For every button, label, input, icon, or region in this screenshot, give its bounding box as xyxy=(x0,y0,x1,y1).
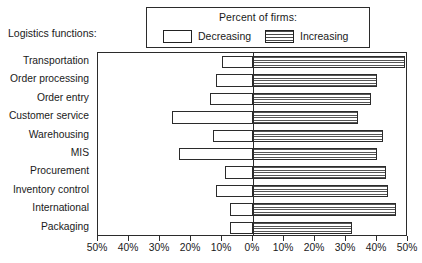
bar-decreasing xyxy=(222,56,253,68)
bar-increasing xyxy=(253,148,377,160)
x-axis-tick-label: 40% xyxy=(111,242,145,253)
bar-increasing xyxy=(253,93,371,105)
category-label: Inventory control xyxy=(13,181,89,199)
bar-increasing xyxy=(253,166,386,178)
legend-label-decreasing: Decreasing xyxy=(198,30,251,42)
category-label: Customer service xyxy=(9,107,89,125)
category-label: Warehousing xyxy=(29,126,89,144)
legend-item-decreasing: Decreasing xyxy=(163,28,251,44)
x-axis-tick-label: 50% xyxy=(80,242,114,253)
x-axis-tick xyxy=(252,236,253,241)
bar-row xyxy=(98,108,406,126)
x-axis-tick-label: 0% xyxy=(235,242,269,253)
bar-row xyxy=(98,219,406,237)
bar-row xyxy=(98,145,406,163)
x-axis-tick-label: 20% xyxy=(297,242,331,253)
bar-row xyxy=(98,90,406,108)
chart-legend: Percent of firms: Decreasing Increasing xyxy=(146,7,370,48)
x-axis-tick xyxy=(190,236,191,241)
x-axis-tick xyxy=(407,236,408,241)
legend-items-row: Decreasing Increasing xyxy=(147,28,369,46)
x-axis-tick xyxy=(128,236,129,241)
bar-row xyxy=(98,127,406,145)
category-label: Procurement xyxy=(30,162,89,180)
legend-swatch-increasing-icon xyxy=(265,30,294,43)
category-axis-labels: TransportationOrder processingOrder entr… xyxy=(0,52,93,236)
bar-increasing xyxy=(253,56,405,68)
category-label: MIS xyxy=(71,144,89,162)
legend-item-increasing: Increasing xyxy=(265,28,348,44)
x-axis-tick xyxy=(97,236,98,241)
bar-decreasing xyxy=(210,93,253,105)
bar-row xyxy=(98,71,406,89)
x-axis-tick xyxy=(345,236,346,241)
bar-row xyxy=(98,200,406,218)
x-axis-tick xyxy=(314,236,315,241)
bar-increasing xyxy=(253,185,388,197)
legend-label-increasing: Increasing xyxy=(300,30,348,42)
bar-decreasing xyxy=(213,130,253,142)
x-axis-tick-label: 10% xyxy=(204,242,238,253)
x-axis-tick xyxy=(283,236,284,241)
bar-decreasing xyxy=(172,111,253,123)
x-axis-tick-label: 40% xyxy=(359,242,393,253)
x-axis-tick xyxy=(221,236,222,241)
bar-decreasing xyxy=(225,166,253,178)
plot-area xyxy=(97,52,407,236)
x-axis-tick xyxy=(376,236,377,241)
bar-decreasing xyxy=(216,74,253,86)
x-axis-tick-label: 50% xyxy=(390,242,422,253)
bar-increasing xyxy=(253,74,377,86)
bar-decreasing xyxy=(179,148,253,160)
category-label: Transportation xyxy=(23,52,89,70)
bar-row xyxy=(98,53,406,71)
bar-decreasing xyxy=(216,185,253,197)
bar-increasing xyxy=(253,111,358,123)
x-axis-tick xyxy=(159,236,160,241)
category-label: Order entry xyxy=(37,89,89,107)
bar-increasing xyxy=(253,222,352,234)
x-axis-tick-label: 30% xyxy=(328,242,362,253)
bar-decreasing xyxy=(230,203,253,215)
bar-row xyxy=(98,182,406,200)
bar-increasing xyxy=(253,130,383,142)
axis-group-title: Logistics functions: xyxy=(8,27,97,39)
bar-increasing xyxy=(253,203,396,215)
bar-row xyxy=(98,163,406,181)
category-label: Order processing xyxy=(10,70,89,88)
category-label: Packaging xyxy=(41,218,89,236)
legend-title: Percent of firms: xyxy=(147,11,369,23)
bar-decreasing xyxy=(230,222,253,234)
category-label: International xyxy=(32,199,89,217)
x-axis-tick-label: 30% xyxy=(142,242,176,253)
x-axis: 50%40%30%20%10%0%10%20%30%40%50% xyxy=(97,236,407,262)
legend-swatch-decreasing-icon xyxy=(163,30,192,43)
x-axis-tick-label: 10% xyxy=(266,242,300,253)
x-axis-tick-label: 20% xyxy=(173,242,207,253)
